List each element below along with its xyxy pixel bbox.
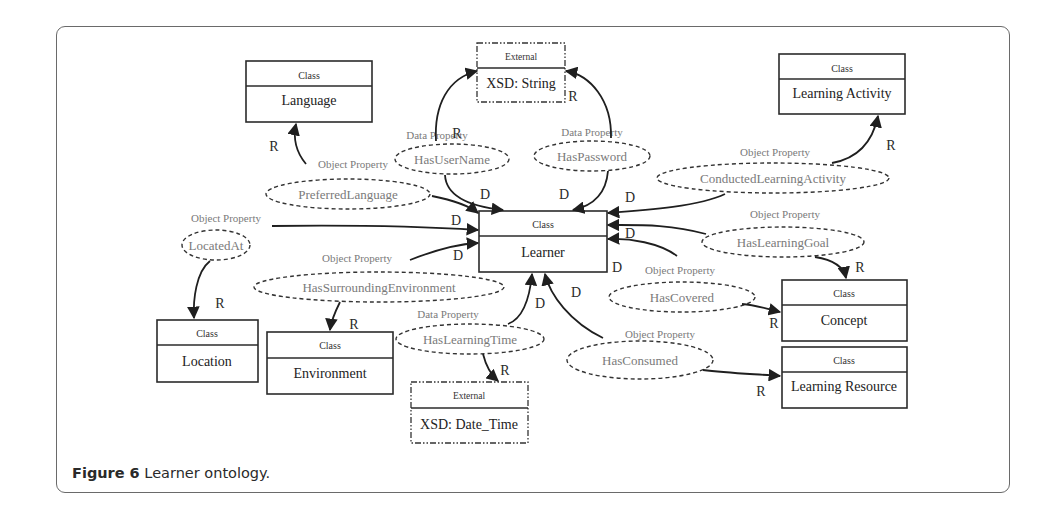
domain-label: D: [451, 213, 461, 228]
property-name: HasConsumed: [602, 353, 678, 368]
domain-arrow-preferred-language: [432, 196, 478, 213]
property-name: ConductedLearningActivity: [700, 171, 846, 186]
property-type-label: Object Property: [750, 208, 820, 220]
class-header: Class: [833, 355, 855, 366]
ontology-diagram: Class Language Class Learning Activity C…: [0, 0, 1062, 527]
class-environment: Class Environment: [267, 332, 393, 394]
class-name: Environment: [293, 366, 366, 381]
external-name: XSD: Date_Time: [420, 417, 518, 432]
domain-label: D: [535, 296, 545, 311]
class-learner: Class Learner: [479, 211, 607, 272]
property-type-label: Data Property: [561, 126, 623, 138]
property-type-label: Object Property: [318, 158, 388, 170]
domain-label: D: [625, 226, 635, 241]
figure-caption-label: Figure 6: [72, 465, 140, 481]
class-name: Learner: [521, 245, 565, 260]
property-type-label: Object Property: [645, 264, 715, 276]
class-header: Class: [831, 63, 853, 74]
class-name: Learning Resource: [791, 379, 897, 394]
range-arrow-has-consumed: [703, 370, 780, 376]
range-label: R: [452, 126, 462, 141]
external-name: XSD: String: [486, 76, 556, 91]
range-label: R: [269, 139, 279, 154]
class-learning-activity: Class Learning Activity: [779, 54, 905, 114]
class-header: Class: [319, 340, 341, 351]
property-type-label: Data Property: [417, 308, 479, 320]
domain-arrow-has-password: [573, 171, 608, 210]
property-type-label: Object Property: [322, 252, 392, 264]
class-name: Concept: [821, 313, 868, 328]
class-header: Class: [298, 70, 320, 81]
domain-label: D: [571, 285, 581, 300]
class-header: Class: [833, 288, 855, 299]
range-label: R: [855, 260, 865, 275]
domain-arrow-has-consumed: [545, 274, 603, 338]
domain-arrow-has-learning-time: [508, 274, 532, 324]
domain-label: D: [612, 260, 622, 275]
range-arrow-conducted-learning-activity: [832, 116, 878, 163]
property-name: PreferredLanguage: [298, 187, 398, 202]
property-name: HasUserName: [414, 152, 490, 167]
range-arrow-has-learning-goal: [815, 257, 846, 278]
class-learning-resource: Class Learning Resource: [782, 347, 907, 408]
property-type-label: Object Property: [625, 328, 695, 340]
range-label: R: [568, 89, 578, 104]
range-arrow-located-at: [194, 261, 210, 318]
class-header: Class: [532, 219, 554, 230]
range-label: R: [886, 138, 896, 153]
domain-arrow-located-at: [272, 226, 478, 230]
domain-label: D: [559, 187, 569, 202]
range-arrow-has-covered: [742, 304, 780, 312]
figure-caption: Figure 6 Learner ontology.: [72, 465, 270, 481]
class-name: Language: [281, 93, 336, 108]
class-location: Class Location: [157, 320, 258, 382]
property-type-label: Object Property: [191, 212, 261, 224]
domain-arrow-has-learning-goal: [608, 225, 706, 234]
property-name: HasCovered: [650, 290, 715, 305]
external-xsd-string: External XSD: String: [477, 43, 565, 102]
range-label: R: [349, 317, 359, 332]
external-header: External: [453, 391, 486, 401]
property-name: HasLearningTime: [423, 332, 517, 347]
range-label: R: [215, 296, 225, 311]
domain-label: D: [453, 248, 463, 263]
class-header: Class: [196, 328, 218, 339]
range-label: R: [769, 316, 779, 331]
property-name: HasPassword: [557, 149, 628, 164]
range-label: R: [756, 384, 766, 399]
domain-arrow-has-surrounding-environment: [410, 243, 478, 260]
domain-label: D: [625, 190, 635, 205]
external-header: External: [505, 52, 538, 62]
domain-label: D: [480, 187, 490, 202]
range-label: R: [500, 363, 510, 378]
class-language: Class Language: [246, 61, 372, 122]
property-name: HasLearningGoal: [737, 235, 830, 250]
class-name: Learning Activity: [792, 86, 891, 101]
figure-caption-text: Learner ontology.: [140, 465, 270, 481]
class-concept: Class Concept: [782, 280, 907, 341]
property-type-label: Object Property: [740, 146, 810, 158]
property-name: HasSurroundingEnvironment: [302, 280, 455, 295]
property-name: LocatedAt: [189, 238, 244, 253]
domain-arrow-has-user-name: [445, 175, 503, 210]
domain-arrow-has-covered: [608, 239, 677, 256]
range-arrow-preferred-language: [295, 124, 306, 164]
class-name: Location: [182, 354, 232, 369]
external-xsd-date-time: External XSD: Date_Time: [411, 382, 528, 443]
range-arrow-has-learning-time: [483, 354, 498, 381]
range-arrow-has-surrounding-environment: [330, 302, 340, 330]
